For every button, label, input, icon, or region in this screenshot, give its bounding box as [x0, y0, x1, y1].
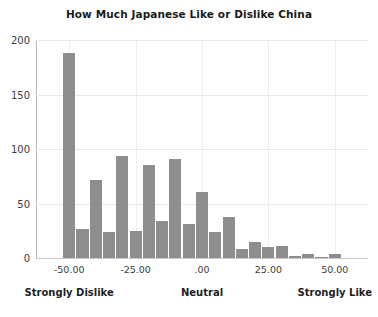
gridline-vertical	[268, 40, 269, 258]
chart-container: How Much Japanese Like or Dislike China …	[0, 0, 378, 317]
category-label: Neutral	[181, 287, 223, 298]
bar	[302, 254, 314, 258]
y-tick-label: 100	[0, 144, 30, 155]
y-tick-label: 200	[0, 35, 30, 46]
bar	[143, 165, 155, 258]
bar	[236, 249, 248, 258]
bar	[196, 192, 208, 258]
bar	[156, 221, 168, 258]
x-axis-line	[36, 258, 368, 259]
y-tick-label: 50	[0, 198, 30, 209]
x-tick-label: .00	[194, 264, 209, 275]
category-label: Strongly Dislike	[25, 287, 114, 298]
x-tick-label: -25.00	[120, 264, 151, 275]
bar	[249, 242, 261, 258]
bar	[276, 246, 288, 258]
bar	[130, 231, 142, 258]
bar	[103, 232, 115, 258]
bar	[63, 53, 75, 258]
x-tick-label: 25.00	[255, 264, 282, 275]
bar	[209, 232, 221, 258]
x-tick-label: -50.00	[54, 264, 85, 275]
gridline-vertical	[335, 40, 336, 258]
plot-area	[36, 40, 368, 258]
chart-title: How Much Japanese Like or Dislike China	[0, 8, 378, 20]
bar	[262, 247, 274, 258]
bar	[90, 180, 102, 258]
bar	[169, 159, 181, 258]
bar	[223, 217, 235, 258]
gridline-vertical	[136, 40, 137, 258]
category-label: Strongly Like	[298, 287, 372, 298]
y-tick-label: 150	[0, 89, 30, 100]
bar	[289, 256, 301, 258]
y-tick-label: 0	[0, 253, 30, 264]
x-tick-label: 50.00	[321, 264, 348, 275]
bar	[116, 156, 128, 258]
bar	[315, 257, 327, 258]
bar	[76, 229, 88, 258]
bar	[329, 254, 341, 258]
bar	[183, 224, 195, 258]
